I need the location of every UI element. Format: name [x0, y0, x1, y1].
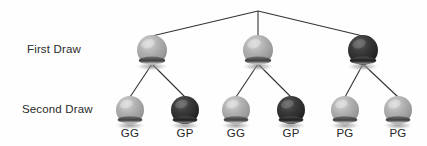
tree-edges-root: [152, 11, 363, 36]
tree-edge-root-1: [152, 11, 258, 36]
second-draw-ball-base-4: [279, 116, 304, 123]
second-draw-ball-base-5: [333, 116, 358, 123]
first-draw-row-label: First Draw: [27, 44, 81, 56]
tree-edge-root-3: [258, 11, 363, 36]
diagram-canvas: First Draw Second Draw GGGPGGGPPGPG: [0, 0, 427, 146]
probability-tree-graphic: [0, 0, 427, 146]
first-draw-ball-group: [137, 35, 378, 65]
outcome-label-1: GG: [121, 128, 139, 140]
outcome-label-4: GP: [282, 128, 299, 140]
outcome-label-3: GG: [227, 128, 245, 140]
outcome-label-5: PG: [336, 128, 353, 140]
second-draw-ball-base-2: [173, 116, 198, 123]
second-draw-row-label: Second Draw: [22, 104, 93, 116]
first-draw-ball-base-1: [139, 57, 165, 65]
ball-shadows: [114, 62, 414, 130]
outcome-label-6: PG: [389, 128, 406, 140]
outcome-label-2: GP: [176, 128, 193, 140]
first-draw-ball-base-3: [350, 57, 376, 65]
second-draw-ball-base-3: [224, 116, 249, 123]
second-draw-ball-base-6: [386, 116, 411, 123]
first-draw-ball-base-2: [245, 57, 271, 65]
second-draw-ball-base-1: [118, 116, 143, 123]
second-draw-ball-group: [116, 96, 412, 124]
